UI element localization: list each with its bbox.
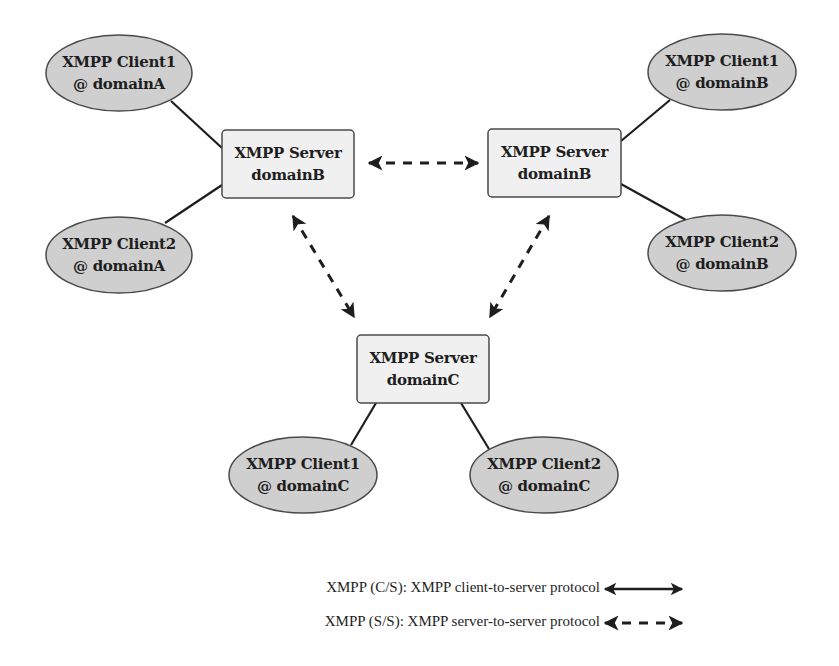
client2-domainC-line2: @ domainC bbox=[470, 475, 618, 497]
server-bottom-line1: XMPP Server bbox=[357, 347, 489, 369]
server-left-line1: XMPP Server bbox=[222, 142, 354, 164]
legend-client-server: XMPP (C/S): XMPP client-to-server protoc… bbox=[326, 579, 600, 596]
link-client1-domainB bbox=[621, 100, 670, 141]
client2-domainB-label: XMPP Client2 @ domainB bbox=[648, 231, 796, 275]
client2-domainB-line2: @ domainB bbox=[648, 253, 796, 275]
link-client1-domainA bbox=[171, 101, 222, 148]
link-client2-domainC bbox=[461, 403, 489, 449]
client2-domainC-label: XMPP Client2 @ domainC bbox=[470, 453, 618, 497]
legend-client-server-label: XMPP (C/S): XMPP client-to-server protoc… bbox=[326, 579, 600, 595]
link-serverB-serverC-right bbox=[490, 216, 549, 317]
server-left-line2: domainB bbox=[222, 164, 354, 186]
link-client2-domainB bbox=[621, 184, 686, 220]
client1-domainC-line2: @ domainC bbox=[229, 475, 377, 497]
client2-domainA-line1: XMPP Client2 bbox=[46, 233, 192, 255]
server-right-line1: XMPP Server bbox=[488, 141, 621, 163]
server-bottom-line2: domainC bbox=[357, 369, 489, 391]
client1-domainA-line1: XMPP Client1 bbox=[46, 51, 192, 73]
link-client2-domainA bbox=[165, 185, 222, 223]
client1-domainB-label: XMPP Client1 @ domainB bbox=[648, 50, 796, 94]
client2-domainB-line1: XMPP Client2 bbox=[648, 231, 796, 253]
server-right-label: XMPP Server domainB bbox=[488, 141, 621, 185]
client1-domainB-line1: XMPP Client1 bbox=[648, 50, 796, 72]
client2-domainC-line1: XMPP Client2 bbox=[470, 453, 618, 475]
xmpp-architecture-diagram: XMPP Server domainB XMPP Server domainB … bbox=[0, 0, 839, 666]
client1-domainA-line2: @ domainA bbox=[46, 73, 192, 95]
client1-domainC-label: XMPP Client1 @ domainC bbox=[229, 453, 377, 497]
server-bottom-label: XMPP Server domainC bbox=[357, 347, 489, 391]
client1-domainB-line2: @ domainB bbox=[648, 72, 796, 94]
legend-server-server-label: XMPP (S/S): XMPP server-to-server protoc… bbox=[325, 613, 600, 629]
client1-domainA-label: XMPP Client1 @ domainA bbox=[46, 51, 192, 95]
link-serverB-serverC-left bbox=[293, 216, 354, 317]
link-client1-domainC bbox=[351, 403, 376, 445]
client1-domainC-line1: XMPP Client1 bbox=[229, 453, 377, 475]
server-left-label: XMPP Server domainB bbox=[222, 142, 354, 186]
client2-domainA-line2: @ domainA bbox=[46, 255, 192, 277]
legend-arrows bbox=[605, 589, 682, 623]
client2-domainA-label: XMPP Client2 @ domainA bbox=[46, 233, 192, 277]
server-right-line2: domainB bbox=[488, 163, 621, 185]
legend-server-server: XMPP (S/S): XMPP server-to-server protoc… bbox=[325, 613, 600, 630]
